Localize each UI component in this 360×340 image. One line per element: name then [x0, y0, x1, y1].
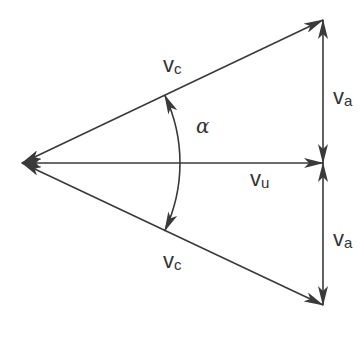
vector-vc-top — [22, 20, 323, 163]
label-va-bottom: va — [333, 226, 353, 251]
label-vc-top: vc — [163, 52, 182, 77]
velocity-triangle-diagram: vc α vu vc va va — [0, 0, 360, 340]
label-alpha: α — [196, 114, 210, 138]
label-vu: vu — [250, 166, 269, 191]
vector-vc-bottom — [22, 163, 323, 305]
label-vc-bottom: vc — [163, 248, 182, 273]
label-va-top: va — [333, 84, 353, 109]
